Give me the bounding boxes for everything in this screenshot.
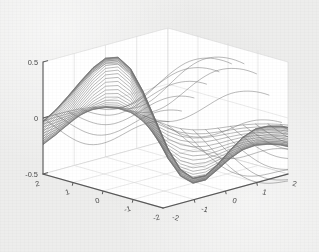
- y-tick-label: 0: [94, 196, 100, 206]
- y-tick-label: 2: [34, 179, 40, 189]
- z-tick-label: 0: [34, 114, 38, 123]
- x-tick-label: 2: [291, 179, 297, 189]
- figure-canvas: 0.5 0 -0.5 2 1 0 -1 -2 -2 -1 0 1 2: [0, 0, 319, 252]
- z-tick-label: 0.5: [28, 58, 38, 67]
- z-tick-labels: 0.5 0 -0.5: [25, 58, 38, 179]
- y-tick-label: -1: [123, 204, 132, 214]
- z-tick-label: -0.5: [25, 170, 38, 179]
- y-tick-label: -2: [152, 212, 161, 222]
- x-tick-label: -2: [171, 212, 180, 222]
- y-tick-label: 1: [64, 187, 70, 197]
- mesh-plot-3d: 0.5 0 -0.5 2 1 0 -1 -2 -2 -1 0 1 2: [0, 0, 319, 252]
- x-tick-label: -1: [200, 204, 209, 214]
- x-tick-label: 1: [261, 187, 267, 197]
- x-tick-label: 0: [231, 196, 237, 206]
